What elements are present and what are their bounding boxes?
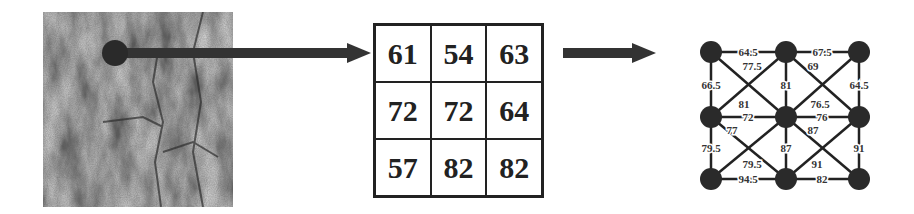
edge-weight-label: 69 <box>808 60 820 72</box>
graph-node <box>848 41 870 63</box>
edge-weight-label: 76.5 <box>810 98 830 110</box>
edge-weight-label: 79.5 <box>742 158 762 170</box>
edge-weight-label: 82 <box>817 173 829 185</box>
graph-node <box>700 41 722 63</box>
graph-node <box>775 41 797 63</box>
edge-weight-label: 77 <box>727 124 739 136</box>
edge-weight-label: 91 <box>854 142 865 154</box>
graph-node <box>700 106 722 128</box>
graph-node <box>775 106 797 128</box>
graph-node <box>700 168 722 190</box>
edge-weight-label: 87 <box>808 124 820 136</box>
graph-node <box>775 168 797 190</box>
edge-weight-label: 79.5 <box>701 142 721 154</box>
edge-weight-label: 91 <box>812 158 823 170</box>
edge-weight-label: 94.5 <box>738 173 758 185</box>
graph-node <box>848 106 870 128</box>
edge-weight-label: 87 <box>781 142 793 154</box>
edge-weight-label: 81 <box>781 79 792 91</box>
edge-weight-label: 64.5 <box>738 46 758 58</box>
edge-weight-label: 64.5 <box>849 79 869 91</box>
edge-weight-label: 67.5 <box>812 46 832 58</box>
edge-weight-label: 72 <box>743 111 755 123</box>
weighted-pixel-graph: 64.567.566.58164.577.5698176.57276778779… <box>0 0 914 214</box>
edge-weight-label: 81 <box>739 98 750 110</box>
edge-weight-label: 66.5 <box>701 79 721 91</box>
graph-node <box>848 168 870 190</box>
edge-weight-label: 77.5 <box>742 60 762 72</box>
edge-weight-label: 76 <box>817 111 829 123</box>
